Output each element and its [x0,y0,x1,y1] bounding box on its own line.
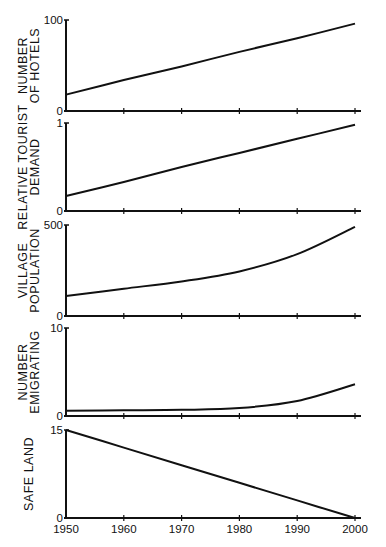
data-line [66,24,355,95]
x-tick-label: 2000 [342,523,368,535]
x-tick-label: 1970 [169,523,195,535]
y-tick-label-max: 500 [44,219,63,231]
y-tick-label-min: 0 [57,310,63,322]
y-axis-label: SAFE LAND [22,437,36,511]
chart-panel-1: 1000NUMBEROF HOTELS [16,14,361,117]
chart-panel-5: 150SAFE LAND [22,424,361,524]
y-tick-label-min: 0 [57,205,63,217]
chart-canvas: 1000NUMBEROF HOTELS10RELATIVE TOURISTDEM… [0,0,386,547]
x-tick-label: 1950 [53,523,79,535]
y-tick-label-max: 10 [50,322,63,334]
y-tick-label-max: 1 [57,117,63,129]
data-line [66,384,355,410]
data-line [66,430,355,518]
y-axis-label: OF HOTELS [28,28,42,103]
y-axis-label: DEMAND [28,138,42,195]
chart-panel-3: 5000VILLAGEPOPULATION [16,219,361,322]
y-axis-label: POPULATION [28,228,42,313]
data-line [66,125,355,196]
y-tick-label-min: 0 [57,105,63,117]
y-axis-label: EMIGRATING [28,330,42,413]
x-tick-label: 1960 [111,523,137,535]
x-axis-labels: 195019601970198019902000 [53,523,368,535]
y-tick-label-max: 100 [44,14,63,26]
chart-panel-2: 10RELATIVE TOURISTDEMAND [16,104,361,229]
data-line [66,227,355,296]
chart-panel-4: 100NUMBEREMIGRATING [16,322,361,422]
y-tick-label-max: 15 [50,424,63,436]
stacked-time-series-figure: 1000NUMBEROF HOTELS10RELATIVE TOURISTDEM… [0,0,386,547]
x-tick-label: 1980 [227,523,253,535]
x-tick-label: 1990 [284,523,310,535]
y-tick-label-min: 0 [57,410,63,422]
